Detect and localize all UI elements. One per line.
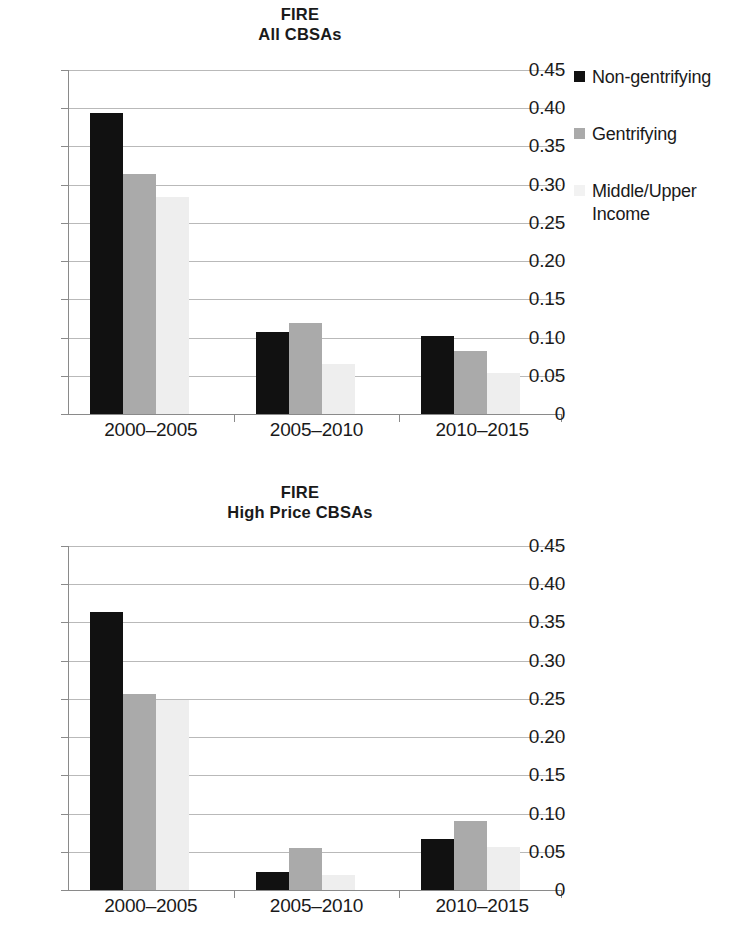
y-axis-tick-mark <box>61 546 68 547</box>
series-swatch-gentrifying <box>574 128 585 139</box>
series-swatch-non-gentrifying <box>574 71 585 82</box>
y-axis-tick-mark <box>61 70 68 71</box>
y-axis-tick-label: 0.40 <box>507 574 565 593</box>
bar <box>289 323 322 414</box>
y-axis-tick-mark <box>61 223 68 224</box>
y-axis-tick-label: 0.15 <box>507 289 565 308</box>
y-axis-tick-label: 0.05 <box>507 842 565 861</box>
y-axis-tick-mark <box>61 108 68 109</box>
chart-title-1-line2: All CBSAs <box>0 24 600 44</box>
chart-title-1: FIRE All CBSAs <box>0 0 600 44</box>
y-axis-line <box>68 70 69 415</box>
gridline <box>68 146 561 147</box>
y-axis-tick-label: 0.30 <box>507 651 565 670</box>
bar <box>322 364 355 414</box>
legend-item-label: Gentrifying <box>592 123 677 146</box>
bar <box>421 839 454 890</box>
plot-inner-2 <box>68 546 565 891</box>
y-axis-tick-label: 0.20 <box>507 727 565 746</box>
gridline <box>68 584 561 585</box>
legend-item: Middle/Upper Income <box>574 180 750 226</box>
y-axis-tick-mark <box>61 584 68 585</box>
x-axis-category-label: 2010–2015 <box>399 415 565 445</box>
y-axis-tick-label: 0.10 <box>507 804 565 823</box>
y-axis-tick-mark <box>61 775 68 776</box>
y-axis-tick-mark <box>61 890 68 891</box>
y-axis-tick-mark <box>61 661 68 662</box>
series-swatch-middle-upper-income <box>574 185 585 196</box>
bar <box>123 694 156 890</box>
legend-1: Non-gentrifyingGentrifyingMiddle/Upper I… <box>574 66 750 260</box>
bar <box>454 821 487 890</box>
y-axis-tick-label: 0.15 <box>507 765 565 784</box>
y-axis-tick-mark <box>61 737 68 738</box>
plot-area-wrapper-2: 00.050.100.150.200.250.300.350.400.45 20… <box>0 546 750 891</box>
gridline <box>68 661 561 662</box>
plot-inner-1 <box>68 70 565 415</box>
bar <box>156 700 189 890</box>
y-axis-tick-mark <box>61 338 68 339</box>
y-axis-tick-mark <box>61 376 68 377</box>
bar <box>90 612 123 890</box>
x-axis-category-label: 2005–2010 <box>234 415 400 445</box>
chart-title-2-line2: High Price CBSAs <box>0 502 600 522</box>
gridline <box>68 70 561 71</box>
x-axis-category-label: 2000–2005 <box>68 891 234 921</box>
chart-title-1-line1: FIRE <box>281 5 319 23</box>
y-axis-line <box>68 546 69 891</box>
y-axis-tick-mark <box>61 814 68 815</box>
y-axis-tick-label: 0.25 <box>507 213 565 232</box>
bar <box>123 174 156 414</box>
bar <box>256 332 289 414</box>
bar <box>454 351 487 414</box>
y-axis-tick-label: 0.35 <box>507 612 565 631</box>
legend-item: Non-gentrifying <box>574 66 750 89</box>
y-axis-tick-label: 0.35 <box>507 136 565 155</box>
y-axis-tick-mark <box>61 414 68 415</box>
x-axis-category-label: 2005–2010 <box>234 891 400 921</box>
plot-2: 00.050.100.150.200.250.300.350.400.45 <box>0 546 565 891</box>
y-axis-tick-label: 0.40 <box>507 98 565 117</box>
legend-item-label: Middle/Upper Income <box>592 180 697 226</box>
y-axis-tick-mark <box>61 852 68 853</box>
bar <box>322 875 355 890</box>
y-axis-tick-mark <box>61 622 68 623</box>
x-axis-category-label: 2010–2015 <box>399 891 565 921</box>
figure-page: FIRE All CBSAs 00.050.100.150.200.250.30… <box>0 0 750 943</box>
x-axis-labels-1: 2000–20052005–20102010–2015 <box>68 415 750 449</box>
plot-1: 00.050.100.150.200.250.300.350.400.45 <box>0 70 565 415</box>
y-axis-tick-mark <box>61 299 68 300</box>
y-axis-tick-label: 0.45 <box>507 536 565 555</box>
y-axis-tick-label: 0.30 <box>507 175 565 194</box>
chart-figure-all-cbsas: FIRE All CBSAs 00.050.100.150.200.250.30… <box>0 0 750 470</box>
bar <box>289 848 322 890</box>
legend-item: Gentrifying <box>574 123 750 146</box>
chart-title-2-line1: FIRE <box>281 483 319 501</box>
x-axis-labels-2: 2000–20052005–20102010–2015 <box>68 891 750 925</box>
bar <box>256 872 289 890</box>
gridline <box>68 622 561 623</box>
y-axis-tick-mark <box>61 261 68 262</box>
legend-item-label: Non-gentrifying <box>592 66 711 89</box>
bar <box>156 197 189 414</box>
gridline <box>68 546 561 547</box>
chart-figure-high-price-cbsas: FIRE High Price CBSAs 00.050.100.150.200… <box>0 478 750 943</box>
chart-title-2: FIRE High Price CBSAs <box>0 478 600 522</box>
bar <box>421 336 454 414</box>
y-axis-tick-label: 0.20 <box>507 251 565 270</box>
y-axis-tick-mark <box>61 185 68 186</box>
y-axis-tick-label: 0.05 <box>507 366 565 385</box>
x-axis-category-label: 2000–2005 <box>68 415 234 445</box>
y-axis-tick-mark <box>61 699 68 700</box>
y-axis-tick-mark <box>61 146 68 147</box>
y-axis-tick-label: 0.45 <box>507 60 565 79</box>
bar <box>90 113 123 414</box>
y-axis-tick-label: 0.10 <box>507 328 565 347</box>
y-axis-tick-label: 0.25 <box>507 689 565 708</box>
gridline <box>68 108 561 109</box>
